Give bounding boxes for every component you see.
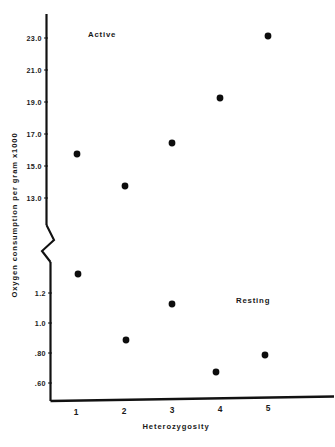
data-point-active-4	[217, 95, 224, 102]
scatter-chart: 23.0 21.0 19.0 17.0 15.0 13.0 1.2 1.0 .8…	[0, 0, 335, 447]
y-tick-label: 15.0	[26, 162, 42, 171]
y-tick-label: 23.0	[26, 34, 42, 43]
x-axis-title: Heterozygosity	[142, 422, 209, 431]
x-tick-label: 3	[170, 405, 175, 415]
y-tick-label: 13.0	[26, 194, 42, 203]
x-tick-label: 1	[74, 407, 79, 417]
x-tick-label: 2	[122, 406, 127, 416]
data-point-active-2	[122, 183, 129, 190]
data-point-active-5	[265, 33, 272, 40]
y-tick-label: 21.0	[26, 66, 42, 75]
y-tick-label: 1.0	[35, 319, 46, 328]
active-group-label: Active	[88, 30, 116, 39]
x-axis-line	[51, 397, 335, 402]
data-point-resting-2	[123, 337, 130, 344]
axis-break-icon	[42, 225, 54, 262]
data-point-resting-4	[213, 369, 220, 376]
resting-group-label: Resting	[236, 296, 270, 305]
y-tick-label: .80	[35, 349, 46, 358]
data-point-resting-1	[75, 271, 82, 278]
x-tick-label: 5	[266, 403, 271, 413]
x-tick-label: 4	[218, 404, 223, 414]
y-tick-label: 17.0	[26, 130, 42, 139]
y-tick-label: .60	[35, 379, 46, 388]
y-tick-label: 19.0	[26, 98, 42, 107]
y-tick-label: 1.2	[35, 289, 46, 298]
y-axis-title: Oxygen consumption per gram x1000	[10, 132, 19, 297]
data-point-active-3	[169, 140, 176, 147]
data-point-resting-3	[169, 301, 176, 308]
data-point-active-1	[74, 151, 81, 158]
data-point-resting-5	[262, 352, 269, 359]
plot-area: 23.0 21.0 19.0 17.0 15.0 13.0 1.2 1.0 .8…	[0, 0, 335, 447]
